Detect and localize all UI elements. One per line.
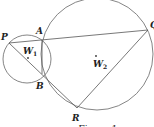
label-r: R xyxy=(71,113,80,123)
label-w2: W2 xyxy=(93,59,107,70)
label-b: B xyxy=(35,81,44,91)
center-w2-dot xyxy=(95,55,97,57)
label-a: A xyxy=(35,26,43,36)
figure-caption: Figure 1 xyxy=(77,124,117,127)
label-p: P xyxy=(0,32,8,42)
segment-pq xyxy=(9,30,148,43)
segment-qr xyxy=(77,30,148,108)
segment-pr xyxy=(9,43,77,108)
label-w1: W1 xyxy=(23,46,37,57)
center-w1-dot xyxy=(27,57,29,59)
circle-w2 xyxy=(41,0,153,110)
label-q: Q xyxy=(150,20,154,30)
geometry-figure: P A B R Q W1 W2 Figure 1 xyxy=(0,0,154,127)
